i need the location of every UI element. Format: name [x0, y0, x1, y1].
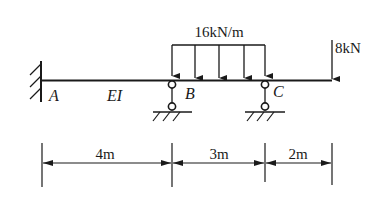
- dimension-label-ab: 4m: [95, 146, 115, 162]
- dimension-label-c-end: 2m: [288, 146, 308, 162]
- point-load-label: 8kN: [335, 40, 361, 56]
- distributed-load: [172, 45, 265, 78]
- fixed-support-a: [30, 61, 41, 102]
- label-b: B: [185, 85, 195, 102]
- label-a: A: [48, 87, 59, 104]
- beam-diagram: 16kN/m 8kN A EI B C 4m 3m 2m: [0, 0, 389, 211]
- dimension-label-bc: 3m: [209, 146, 229, 162]
- label-ei: EI: [106, 87, 123, 104]
- label-c: C: [273, 83, 284, 100]
- distributed-load-label: 16kN/m: [194, 24, 244, 40]
